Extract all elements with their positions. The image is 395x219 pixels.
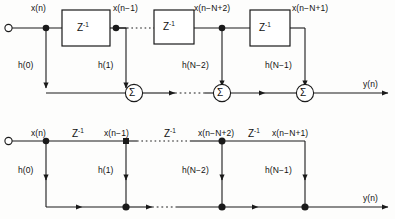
bottom-signal-label-xnN1: x(n−N+1) <box>272 128 308 138</box>
bottom-signal-label-xnN2: x(n−N+2) <box>198 128 234 138</box>
bottom-output-label: y(n) <box>363 193 378 203</box>
bottom-signal-label-xn1: x(n−1) <box>104 128 129 138</box>
bottom-coef-label-hn1: h(N−1) <box>265 165 292 175</box>
top-signal-label-xn: x(n) <box>31 3 46 13</box>
bottom-coef-label-h1: h(1) <box>98 165 114 175</box>
bottom-delay-label-1: Z-1 <box>72 127 84 139</box>
top-summer-symbol-3: Σ <box>300 87 306 98</box>
bottom-sum-node-1 <box>122 203 129 210</box>
figure-canvas: x(n) x(n−1) x(n−N+2) x(n−N+1) Z-1 Z-1 Z-… <box>0 0 395 219</box>
top-summer-symbol-2: Σ <box>217 87 223 98</box>
top-signal-label-xnN1: x(n−N+1) <box>292 3 328 13</box>
bottom-sum-node-3 <box>301 203 308 210</box>
top-delay-label-3: Z-1 <box>259 21 271 33</box>
bottom-delay-label-3: Z-1 <box>248 127 260 139</box>
bottom-coef-label-hn2: h(N−2) <box>182 165 209 175</box>
top-coef-label-h0: h(0) <box>18 60 34 70</box>
bottom-coef-label-h0: h(0) <box>18 165 34 175</box>
top-summer-symbol-1: Σ <box>129 87 135 98</box>
top-coef-label-hn1: h(N−1) <box>265 60 292 70</box>
top-coef-label-h1: h(1) <box>98 60 114 70</box>
top-signal-label-xnN2: x(n−N+2) <box>194 3 230 13</box>
bottom-input-terminal <box>5 137 12 144</box>
top-coef-label-hn2: h(N−2) <box>182 60 209 70</box>
top-input-terminal <box>5 24 12 31</box>
bottom-sum-node-2 <box>218 203 225 210</box>
bottom-delay-label-2: Z-1 <box>164 127 176 139</box>
bottom-signal-label-xn: x(n) <box>31 128 46 138</box>
top-delay-label-2: Z-1 <box>163 20 175 32</box>
top-signal-label-xn1: x(n−1) <box>113 3 138 13</box>
diagram-linework <box>0 0 395 219</box>
top-delay-label-1: Z-1 <box>77 21 89 33</box>
top-output-label: y(n) <box>363 79 378 89</box>
